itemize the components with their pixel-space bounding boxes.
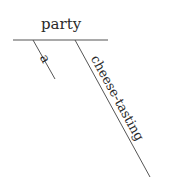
- modifier-line-cheese-tasting: [75, 40, 150, 177]
- sentence-diagram: party a cheese-tasting: [0, 0, 176, 183]
- diagram-lines: [0, 0, 176, 183]
- subject-word: party: [41, 17, 81, 32]
